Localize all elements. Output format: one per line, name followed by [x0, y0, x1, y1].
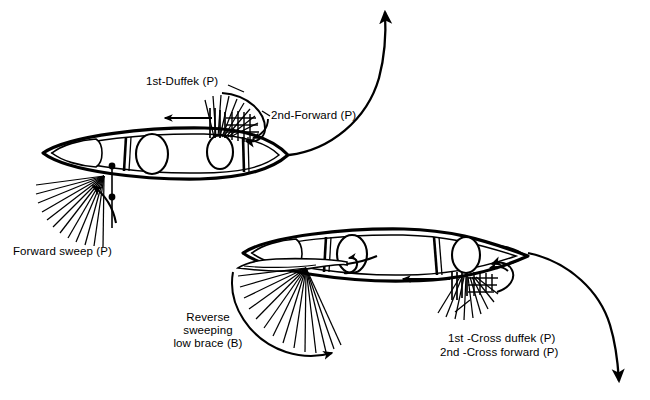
label-reverse-sweep-line2: sweeping [163, 324, 253, 337]
seat-bow-upper [207, 135, 233, 169]
label-forward-sweep: Forward sweep (P) [13, 245, 112, 258]
label-first-duffek: 1st-Duffek (P) [146, 75, 218, 88]
seat-stern-upper [136, 134, 168, 174]
label-reverse-sweep-line3: low brace (B) [163, 337, 253, 350]
seat-stern-lower [337, 235, 367, 273]
label-first-cross-duffek: 1st -Cross duffek (P) [448, 332, 555, 345]
canoe-hull-upper [43, 128, 288, 179]
thwart-fwd-upper [243, 137, 244, 172]
trajectory-arrow-upper [289, 12, 385, 155]
diagram-canvas: 1st-Duffek (P) 2nd-Forward (P) Forward s… [0, 0, 650, 400]
paddle-stroke-fan-cross-duffek [438, 277, 498, 320]
leader-line-duffek-upper [228, 85, 244, 92]
label-reverse-sweep-line1: Reverse [163, 311, 253, 324]
trajectory-arrow-lower [528, 253, 619, 381]
seat-bow-lower [452, 237, 480, 273]
paddle-stroke-fan-reverse-sweep [238, 268, 341, 353]
leader-line-second-forward [262, 111, 270, 116]
label-second-forward: 2nd-Forward (P) [271, 109, 356, 122]
label-second-cross-forward: 2nd -Cross forward (P) [440, 346, 559, 359]
